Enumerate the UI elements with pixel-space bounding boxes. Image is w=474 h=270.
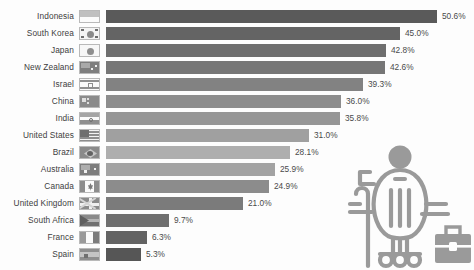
category-label-japan: Japan [0, 44, 74, 57]
bar-brazil [106, 146, 290, 159]
category-label-united-kingdom: United Kingdom [0, 197, 74, 210]
value-label-south-africa: 9.7% [174, 214, 193, 227]
flag-spain-icon [79, 248, 100, 261]
value-label-australia: 25.9% [280, 163, 304, 176]
bar-canada [106, 180, 269, 193]
value-label-japan: 42.8% [391, 44, 415, 57]
flag-australia-icon [79, 163, 100, 176]
value-label-china: 36.0% [346, 95, 370, 108]
flag-indonesia-icon [79, 10, 100, 23]
category-label-new-zealand: New Zealand [0, 61, 74, 74]
person-in-wheelchair-with-briefcase-icon [336, 142, 474, 270]
bar-track [106, 180, 269, 193]
flag-united-states-icon [79, 129, 100, 142]
bar-chart: Indonesia50.6%South Korea45.0%Japan42.8%… [0, 0, 474, 270]
category-label-south-africa: South Africa [0, 214, 74, 227]
category-label-canada: Canada [0, 180, 74, 193]
category-label-united-states: United States [0, 129, 74, 142]
flag-new-zealand-icon [79, 61, 100, 74]
bar-track [106, 78, 363, 91]
bar-united-states [106, 129, 309, 142]
value-label-new-zealand: 42.6% [390, 61, 414, 74]
value-label-israel: 39.3% [368, 78, 392, 91]
category-label-india: India [0, 112, 74, 125]
value-label-canada: 24.9% [274, 180, 298, 193]
bar-track [106, 214, 169, 227]
category-label-south-korea: South Korea [0, 27, 74, 40]
bar-india [106, 112, 340, 125]
category-label-indonesia: Indonesia [0, 10, 74, 23]
bar-track [106, 112, 340, 125]
chart-row: Indonesia50.6% [0, 8, 474, 25]
chart-row: Japan42.8% [0, 42, 474, 59]
flag-israel-icon [79, 78, 100, 91]
bar-south-korea [106, 27, 400, 40]
flag-japan-icon [79, 44, 100, 57]
bar-track [106, 129, 309, 142]
bar-australia [106, 163, 275, 176]
bar-japan [106, 44, 386, 57]
value-label-france: 6.3% [152, 231, 171, 244]
bar-track [106, 10, 437, 23]
flag-france-icon [79, 231, 100, 244]
value-label-india: 35.8% [345, 112, 369, 125]
flag-south-africa-icon [79, 214, 100, 227]
value-label-brazil: 28.1% [295, 146, 319, 159]
category-label-france: France [0, 231, 74, 244]
flag-south-korea-icon [79, 27, 100, 40]
bar-track [106, 248, 141, 261]
value-label-spain: 5.3% [146, 248, 165, 261]
flag-india-icon [79, 112, 100, 125]
category-label-china: China [0, 95, 74, 108]
flag-canada-icon [79, 180, 100, 193]
bar-track [106, 146, 290, 159]
bar-track [106, 163, 275, 176]
chart-row: India35.8% [0, 110, 474, 127]
value-label-united-kingdom: 21.0% [248, 197, 272, 210]
bar-track [106, 95, 341, 108]
bar-france [106, 231, 147, 244]
value-label-south-korea: 45.0% [405, 27, 429, 40]
value-label-indonesia: 50.6% [442, 10, 466, 23]
chart-row: Israel39.3% [0, 76, 474, 93]
bar-track [106, 61, 385, 74]
bar-spain [106, 248, 141, 261]
category-label-brazil: Brazil [0, 146, 74, 159]
bar-track [106, 27, 400, 40]
category-label-israel: Israel [0, 78, 74, 91]
bar-china [106, 95, 341, 108]
category-label-australia: Australia [0, 163, 74, 176]
flag-united-kingdom-icon [79, 197, 100, 210]
bar-israel [106, 78, 363, 91]
bar-track [106, 44, 386, 57]
bar-new-zealand [106, 61, 385, 74]
bar-united-kingdom [106, 197, 243, 210]
value-label-united-states: 31.0% [314, 129, 338, 142]
flag-china-icon [79, 95, 100, 108]
chart-row: South Korea45.0% [0, 25, 474, 42]
flag-brazil-icon [79, 146, 100, 159]
chart-row: China36.0% [0, 93, 474, 110]
bar-track [106, 197, 243, 210]
bar-track [106, 231, 147, 244]
chart-row: New Zealand42.6% [0, 59, 474, 76]
bar-indonesia [106, 10, 437, 23]
bar-south-africa [106, 214, 169, 227]
category-label-spain: Spain [0, 248, 74, 261]
